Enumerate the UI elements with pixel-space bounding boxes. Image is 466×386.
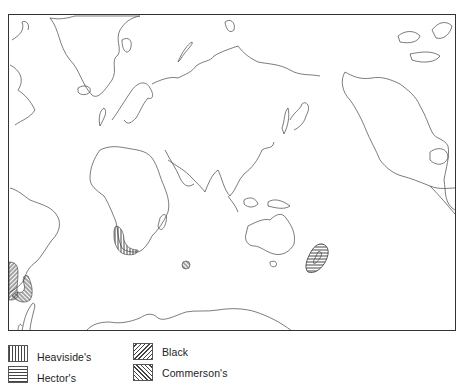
tasmania-outline (270, 261, 277, 267)
greenland-outline (50, 16, 140, 96)
africa-outline (90, 147, 169, 252)
central-america-outline (430, 186, 455, 214)
range-commerson-kerguelen (182, 261, 190, 269)
eurasia-north-outline (152, 46, 320, 84)
diagonal-right-hatch-swatch-icon (133, 343, 153, 360)
legend-item-commerson: Commerson's (133, 364, 228, 381)
europe-outline (99, 83, 152, 126)
japan-outline (282, 108, 289, 134)
asia-south-outline (168, 142, 274, 196)
hudson-bay-outline (430, 149, 448, 165)
diagonal-left-hatch-swatch-icon (133, 364, 153, 381)
legend-label: Black (162, 346, 188, 358)
legend-label: Heaviside's (37, 351, 91, 363)
legend-item-hector: Hector's (8, 364, 76, 384)
horizontal-hatch-swatch-icon (8, 366, 28, 383)
legend-item-black: Black (133, 343, 188, 360)
world-map (0, 0, 466, 386)
north-america-outline (345, 72, 455, 210)
legend-item-heaviside: Heaviside's (8, 343, 91, 363)
legend-label: Commerson's (162, 367, 228, 379)
vertical-hatch-swatch-icon (8, 345, 28, 362)
antarctic-peninsula-outline (22, 303, 35, 331)
antarctica-outline (86, 309, 292, 331)
range-hector-new-zealand (306, 244, 328, 273)
range-heaviside-southwest-africa (114, 226, 138, 255)
legend-label: Hector's (37, 372, 76, 384)
new-guinea-outline (268, 200, 290, 208)
australia-outline (245, 214, 294, 254)
